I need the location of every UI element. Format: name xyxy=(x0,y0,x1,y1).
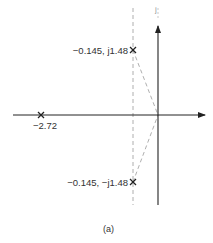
upper-pole-label: −0.145, j1.48 xyxy=(73,45,128,56)
upper-pole-radial-dashed-line xyxy=(133,50,158,115)
figure-caption: (a) xyxy=(103,224,114,235)
lower-pole-label: −0.145, −j1.48 xyxy=(67,177,128,188)
pole-zero-plot xyxy=(0,0,213,243)
lower-pole-radial-dashed-line xyxy=(133,115,158,182)
real-pole-label: −2.72 xyxy=(33,120,57,131)
imag-axis-label: j xyxy=(155,4,157,15)
